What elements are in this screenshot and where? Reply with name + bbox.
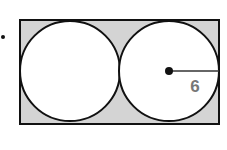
figure-svg: 6 (0, 0, 227, 150)
left-circle (20, 21, 120, 121)
bullet-dot (1, 35, 5, 39)
radius-label: 6 (190, 77, 199, 96)
center-dot (165, 67, 173, 75)
